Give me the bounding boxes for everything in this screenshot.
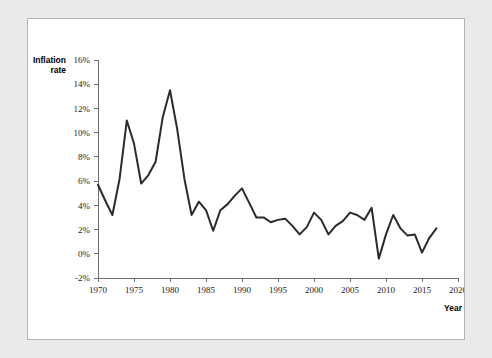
- y-axis-title: Inflationrate: [33, 55, 66, 75]
- page-background: 16%14%12%10%8%6%4%2%0%-2%197019751980198…: [0, 0, 492, 358]
- y-tick-label: 8%: [78, 152, 91, 162]
- y-tick-label: 4%: [78, 201, 91, 211]
- x-axis-title: Year: [444, 303, 463, 313]
- y-tick-label: 6%: [78, 176, 91, 186]
- inflation-line-chart: 16%14%12%10%8%6%4%2%0%-2%197019751980198…: [28, 19, 464, 339]
- y-tick-label: 2%: [78, 225, 91, 235]
- x-tick-label: 1970: [89, 285, 108, 295]
- y-tick-label: -2%: [75, 273, 90, 283]
- chart-panel: 16%14%12%10%8%6%4%2%0%-2%197019751980198…: [27, 18, 465, 340]
- y-tick-label: 10%: [74, 128, 91, 138]
- x-tick-label: 1985: [197, 285, 216, 295]
- x-tick-label: 1975: [125, 285, 144, 295]
- x-tick-label: 2000: [305, 285, 324, 295]
- y-tick-label: 12%: [74, 104, 91, 114]
- x-tick-label: 2010: [377, 285, 396, 295]
- x-tick-label: 2015: [413, 285, 432, 295]
- y-tick-label: 0%: [78, 249, 91, 259]
- y-tick-label: 16%: [74, 55, 91, 65]
- y-tick-label: 14%: [74, 79, 91, 89]
- x-tick-label: 1990: [233, 285, 252, 295]
- x-tick-label: 2020: [449, 285, 464, 295]
- x-tick-label: 1995: [269, 285, 288, 295]
- data-series-line: [98, 90, 436, 258]
- x-tick-label: 2005: [341, 285, 360, 295]
- x-tick-label: 1980: [161, 285, 180, 295]
